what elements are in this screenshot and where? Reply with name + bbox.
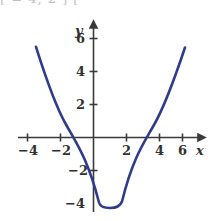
y-tick-label--2: −2 <box>68 164 88 177</box>
x-tick-label--4: −4 <box>18 144 38 157</box>
y-tick-label--4: −4 <box>65 197 85 210</box>
x-tick-label--2: −2 <box>51 144 71 157</box>
x-tick-label-4: 4 <box>155 144 164 157</box>
y-axis-label: y <box>75 24 83 37</box>
x-tick-label-2: 2 <box>122 144 131 157</box>
x-axis-label: x <box>196 144 204 157</box>
y-tick-label-2: 2 <box>76 98 85 111</box>
y-tick-label-4: 4 <box>76 65 85 78</box>
parabola-graph-figure: [ = 4, 2 ] [ <box>0 0 211 221</box>
x-tick-label-6: 6 <box>178 144 187 157</box>
coordinate-plane <box>0 0 211 221</box>
parabola-curve <box>36 47 185 208</box>
